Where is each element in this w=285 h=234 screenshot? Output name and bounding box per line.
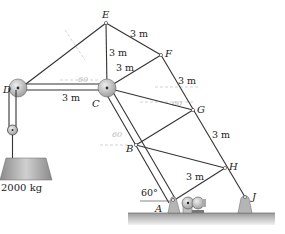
faint-annotations: 60 60 60 (60, 30, 200, 145)
joints (104, 21, 226, 169)
weight-block (0, 158, 52, 180)
node-label-d: D (2, 84, 11, 95)
svg-text:60: 60 (112, 130, 122, 139)
node-label-b: B (125, 143, 133, 154)
node-label-c: C (92, 98, 100, 109)
ground (128, 213, 275, 225)
truss-crane-diagram: 60 60 60 60° 2000 kg (0, 0, 285, 234)
dim-ef: 3 m (130, 28, 148, 39)
node-label-a: A (154, 203, 162, 214)
angle-label: 60° (141, 187, 158, 198)
dim-ah: 3 m (186, 171, 204, 182)
mass-label: 2000 kg (1, 182, 43, 193)
svg-text:60: 60 (78, 75, 88, 84)
boom-member (104, 87, 176, 203)
dim-dc: 3 m (62, 92, 80, 103)
dim-ec: 3 m (109, 47, 127, 58)
node-label-g: G (197, 104, 205, 115)
node-label-h: H (228, 161, 238, 172)
winch (182, 197, 206, 213)
hoist-rope (8, 88, 18, 158)
dim-fg: 3 m (178, 75, 196, 86)
node-label-f: F (164, 48, 173, 59)
dim-gh: 3 m (212, 129, 230, 140)
node-label-e: E (101, 9, 110, 20)
node-label-j: J (250, 191, 257, 202)
dim-cf: 3 m (116, 62, 134, 73)
truss-members (18, 23, 245, 201)
